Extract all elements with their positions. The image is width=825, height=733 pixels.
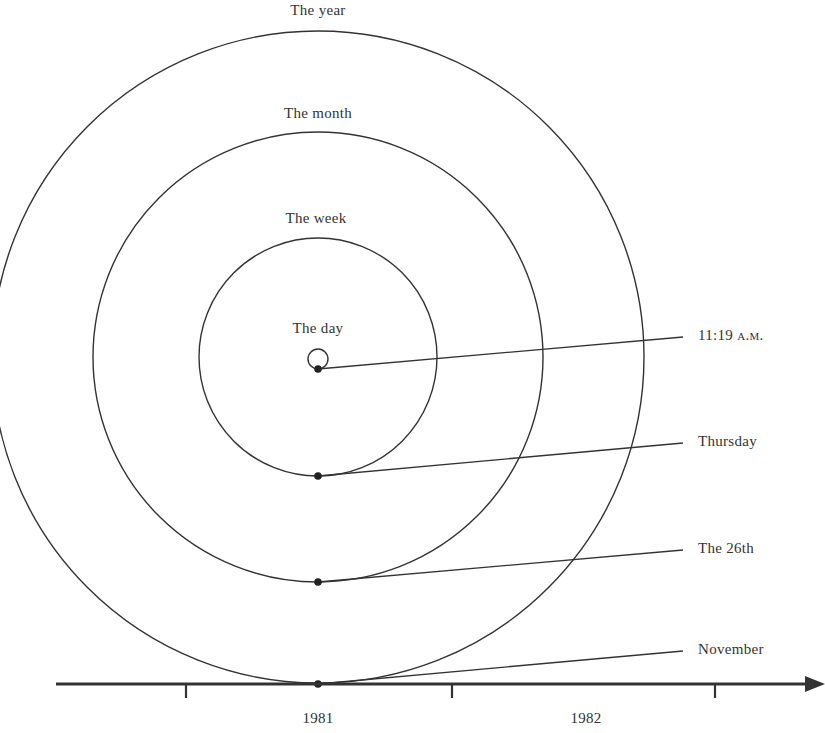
month-pointer-label: November (698, 641, 764, 658)
pointer-line-weekday (318, 443, 683, 476)
day-label: The day (293, 320, 344, 337)
year-label: The year (290, 2, 345, 19)
week-circle (199, 238, 437, 476)
week-label: The week (285, 210, 346, 227)
pointer-line-time (318, 337, 683, 369)
time-axis (56, 684, 808, 698)
time-value: 11:19 (698, 327, 733, 343)
time-suffix: a.m. (737, 327, 763, 343)
weekday-pointer-label: Thursday (698, 433, 757, 450)
week-point (314, 472, 322, 480)
pointer-line-date (318, 550, 683, 582)
time-cycles-diagram (0, 0, 825, 733)
axis-label-1982: 1982 (570, 710, 601, 727)
day-point (314, 365, 322, 373)
month-circle (93, 132, 543, 582)
pointer-line-month (318, 651, 683, 684)
month-label: The month (284, 105, 352, 122)
date-pointer-label: The 26th (698, 540, 754, 557)
axis-label-1981: 1981 (302, 710, 333, 727)
axis-arrow-icon (805, 676, 825, 692)
time-pointer-label: 11:19 a.m. (698, 327, 764, 344)
month-point (314, 578, 322, 586)
year-circle (0, 31, 644, 683)
